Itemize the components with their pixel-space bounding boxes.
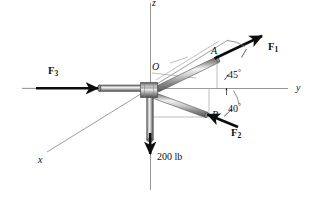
axis-label-y: y bbox=[296, 83, 300, 93]
force-label-f1: F1 bbox=[268, 42, 278, 54]
rod-ob bbox=[151, 92, 209, 118]
angle-45-leader bbox=[242, 49, 247, 58]
force-label-f3: F3 bbox=[48, 66, 58, 78]
x-axis-line bbox=[47, 40, 228, 152]
axis-label-x: x bbox=[38, 155, 42, 165]
joint-hub bbox=[141, 83, 158, 98]
rod-oc bbox=[98, 85, 145, 91]
angle-label-45-value: 45 bbox=[228, 69, 238, 80]
force-label-f3-subscript: 3 bbox=[54, 69, 58, 78]
force-label-f2-subscript: 2 bbox=[237, 131, 241, 140]
angle-label-45-degree: ° bbox=[238, 68, 241, 77]
joint-hub-body bbox=[141, 83, 158, 98]
point-label-b: B bbox=[212, 110, 218, 120]
force-label-f1-subscript: 1 bbox=[274, 45, 278, 54]
axis-label-z: z bbox=[152, 0, 156, 8]
rod-oc-body bbox=[99, 85, 145, 91]
force-label-f2: F2 bbox=[231, 128, 241, 140]
angle-label-40: 40° bbox=[228, 103, 241, 114]
vector-f1-arrow bbox=[215, 36, 263, 59]
angle-label-40-value: 40 bbox=[228, 103, 238, 114]
angle-label-40-degree: ° bbox=[238, 102, 241, 111]
point-label-a: A bbox=[211, 46, 217, 56]
force-diagram-svg bbox=[0, 0, 317, 211]
point-label-o: O bbox=[152, 62, 159, 72]
vector-f1 bbox=[215, 36, 263, 59]
load-label-200lb: 200 lb bbox=[157, 152, 182, 162]
rod-oc-end-cap bbox=[98, 85, 101, 91]
figure-canvas: z y x O A B F1 F2 F3 45° 40° 200 lb bbox=[0, 0, 317, 211]
angle-label-45: 45° bbox=[228, 69, 241, 80]
rod-ob-body bbox=[151, 92, 208, 118]
